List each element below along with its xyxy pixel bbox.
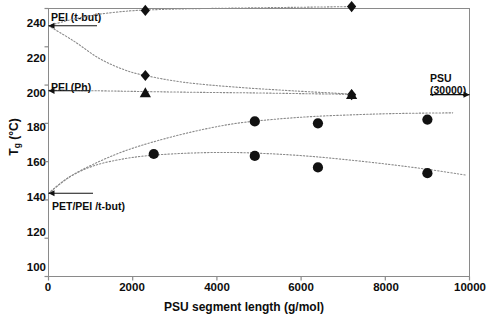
trend-curve	[49, 26, 352, 94]
data-point-circle	[313, 118, 323, 128]
trend-curve	[49, 90, 352, 94]
data-point-circle	[149, 149, 159, 159]
data-series	[49, 26, 357, 101]
data-series	[49, 1, 357, 26]
data-point-circle	[422, 114, 432, 124]
data-point-diamond	[141, 5, 150, 16]
chart-data-layer	[0, 0, 488, 321]
axis-ticks	[45, 9, 470, 281]
annotation-arrow	[49, 190, 94, 196]
data-series	[49, 149, 466, 193]
annotation-arrow	[49, 88, 91, 94]
data-point-diamond	[141, 70, 150, 81]
data-series	[49, 87, 358, 99]
trend-curve	[49, 7, 352, 26]
annotation-arrow	[430, 92, 470, 98]
data-point-circle	[250, 151, 260, 161]
data-point-circle	[422, 168, 432, 178]
data-point-triangle	[140, 87, 151, 97]
chart-figure: 240 220 200 180 160 140 120 100 0 2000 4…	[0, 0, 488, 321]
data-point-circle	[313, 162, 323, 172]
data-point-circle	[250, 116, 260, 126]
data-point-diamond	[347, 1, 356, 12]
